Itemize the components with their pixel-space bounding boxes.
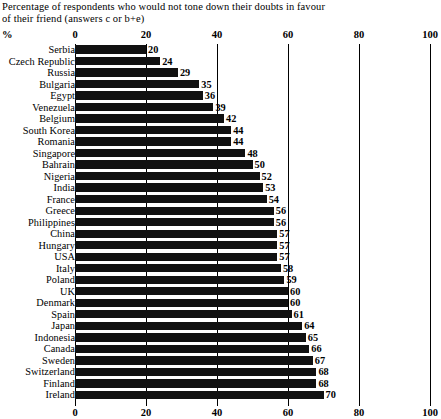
category-label-canada: Canada	[44, 343, 75, 355]
bar-value-label: 66	[311, 343, 321, 355]
bar-canada	[75, 345, 309, 353]
bottom-axis: 020406080100	[0, 401, 441, 419]
category-label-uk: UK	[60, 286, 75, 298]
chart-caption: Percentage of respondents who would not …	[2, 1, 422, 25]
bar-india	[75, 183, 263, 191]
bar-row: Egypt36	[0, 90, 441, 102]
bar-france	[75, 195, 267, 203]
bottom-tickmark-40	[217, 401, 218, 406]
caption-line-1: Percentage of respondents who would not …	[2, 1, 422, 13]
bottom-tickmark-20	[146, 401, 147, 406]
category-label-ireland: Ireland	[45, 389, 75, 401]
bar-value-label: 70	[326, 389, 336, 401]
bar-value-label: 36	[205, 90, 215, 102]
category-label-japan: Japan	[51, 320, 75, 332]
bar-row: Bahrain50	[0, 159, 441, 171]
bar-value-label: 42	[226, 113, 236, 125]
category-label-serbia: Serbia	[48, 44, 75, 56]
bar-china	[75, 230, 277, 238]
bar-row: UK60	[0, 286, 441, 298]
bar-row: Hungary57	[0, 240, 441, 252]
bar-value-label: 56	[276, 205, 286, 217]
bar-row: Russia29	[0, 67, 441, 79]
top-tick-label-60: 60	[283, 29, 294, 40]
top-axis: % 020406080100	[0, 28, 441, 44]
bar-value-label: 50	[255, 159, 265, 171]
bar-row: Switzerland68	[0, 366, 441, 378]
bar-row: India53	[0, 182, 441, 194]
bottom-tickmark-60	[288, 401, 289, 406]
bar-switzerland	[75, 368, 316, 376]
bar-row: Ireland70	[0, 389, 441, 401]
category-label-venezuela: Venezuela	[32, 102, 75, 114]
category-label-bahrain: Bahrain	[42, 159, 75, 171]
bar-value-label: 44	[233, 136, 243, 148]
category-label-nigeria: Nigeria	[44, 171, 75, 183]
bar-value-label: 68	[318, 366, 328, 378]
caption-line-2: of their friend (answers c or b+e)	[2, 13, 422, 25]
top-tick-label-0: 0	[72, 29, 77, 40]
bar-value-label: 57	[279, 240, 289, 252]
category-label-finland: Finland	[43, 378, 75, 390]
category-label-egypt: Egypt	[50, 90, 75, 102]
bar-value-label: 48	[247, 148, 257, 160]
bottom-tickmark-0	[75, 401, 76, 406]
category-label-philippines: Philippines	[28, 217, 75, 229]
plot-area: Serbia20Czech Republic24Russia29Bulgaria…	[0, 44, 441, 401]
bar-serbia	[75, 45, 146, 53]
bar-row: Philippines56	[0, 217, 441, 229]
percent-axis-label: %	[2, 29, 13, 40]
bottom-tick-label-0: 0	[72, 407, 77, 418]
bar-bulgaria	[75, 80, 199, 88]
bar-belgium	[75, 114, 224, 122]
bar-bahrain	[75, 160, 253, 168]
bar-romania	[75, 137, 231, 145]
bar-row: Belgium42	[0, 113, 441, 125]
bar-chart: % 020406080100 Serbia20Czech Republic24R…	[0, 28, 441, 419]
bar-row: Sweden67	[0, 355, 441, 367]
bar-italy	[75, 264, 281, 272]
bar-singapore	[75, 149, 245, 157]
bar-russia	[75, 68, 178, 76]
category-label-sweden: Sweden	[42, 355, 75, 367]
category-label-bulgaria: Bulgaria	[39, 79, 75, 91]
bottom-tick-label-60: 60	[283, 407, 294, 418]
bar-greece	[75, 207, 274, 215]
category-label-france: France	[47, 194, 75, 206]
category-label-romania: Romania	[37, 136, 75, 148]
bar-row: Japan64	[0, 320, 441, 332]
bar-egypt	[75, 91, 203, 99]
bar-row: France54	[0, 194, 441, 206]
category-label-greece: Greece	[46, 205, 75, 217]
bar-value-label: 56	[276, 217, 286, 229]
bar-sweden	[75, 356, 313, 364]
bottom-tick-label-80: 80	[354, 407, 365, 418]
category-label-czech-republic: Czech Republic	[9, 56, 75, 68]
bar-usa	[75, 253, 277, 261]
bar-denmark	[75, 299, 288, 307]
bar-value-label: 35	[201, 79, 211, 91]
bar-japan	[75, 322, 302, 330]
category-label-south-korea: South Korea	[23, 125, 75, 137]
bar-nigeria	[75, 172, 260, 180]
bottom-tickmark-80	[359, 401, 360, 406]
bar-value-label: 54	[269, 194, 279, 206]
category-label-switzerland: Switzerland	[25, 366, 75, 378]
category-label-denmark: Denmark	[36, 297, 75, 309]
bar-value-label: 52	[262, 171, 272, 183]
bar-value-label: 53	[265, 182, 275, 194]
top-tick-label-40: 40	[212, 29, 223, 40]
bar-value-label: 68	[318, 378, 328, 390]
bar-row: China57	[0, 228, 441, 240]
bar-finland	[75, 379, 316, 387]
bar-value-label: 57	[279, 228, 289, 240]
bar-poland	[75, 276, 284, 284]
bar-row: Greece56	[0, 205, 441, 217]
category-label-hungary: Hungary	[39, 240, 75, 252]
bar-row: Spain61	[0, 309, 441, 321]
bar-value-label: 65	[308, 332, 318, 344]
bar-value-label: 60	[290, 286, 300, 298]
bar-czech-republic	[75, 57, 160, 65]
bar-value-label: 64	[304, 320, 314, 332]
bar-spain	[75, 310, 292, 318]
